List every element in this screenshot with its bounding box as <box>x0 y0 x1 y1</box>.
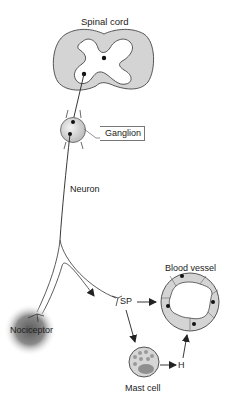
blood-vessel <box>161 273 219 331</box>
spinal-cord <box>53 29 153 90</box>
h-to-vessel-arrow <box>183 335 187 358</box>
neuron-fiber <box>60 134 70 240</box>
peripheral-branch-inner <box>42 266 62 314</box>
mast-cell <box>129 347 159 377</box>
efferent-branch-outer <box>60 240 116 298</box>
antidromic-arrow <box>62 263 94 296</box>
ganglion <box>61 110 104 149</box>
sp-label: SP <box>120 297 132 306</box>
blood-vessel-label: Blood vessel <box>165 264 216 273</box>
ganglion-label: Ganglion <box>100 126 145 141</box>
diagram-canvas <box>0 0 233 408</box>
central-neuron-dot <box>102 56 106 60</box>
spinal-cord-label: Spinal cord <box>81 17 129 27</box>
mast-cell-label: Mast cell <box>125 384 161 393</box>
h-label: H <box>178 361 185 370</box>
nociceptor-label: Nociceptor <box>10 326 53 335</box>
neuron-label: Neuron <box>70 185 100 194</box>
sp-to-mast-arrow <box>126 310 135 342</box>
